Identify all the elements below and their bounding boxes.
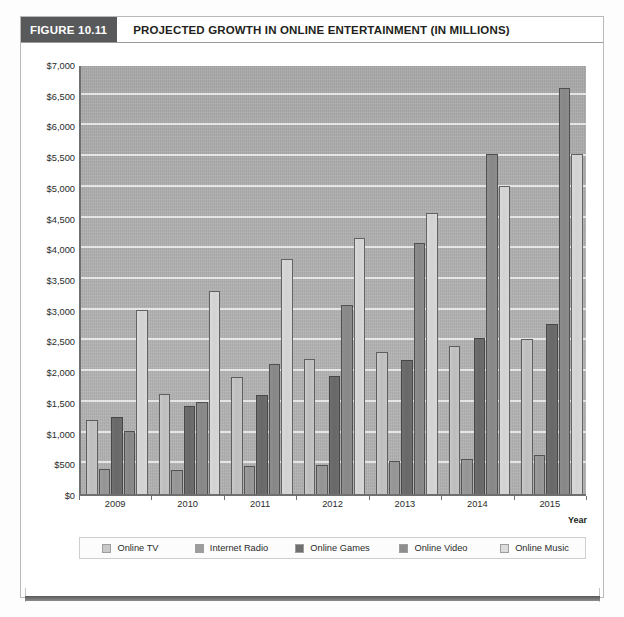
legend-item[interactable]: Online Games	[282, 543, 383, 553]
bar-group	[226, 66, 298, 494]
bar	[184, 406, 196, 494]
bar	[244, 466, 256, 494]
y-axis-tick-label: $1,000	[21, 430, 75, 440]
bar	[136, 310, 148, 494]
x-axis-tick-label: 2013	[395, 499, 416, 509]
bar-group	[443, 66, 515, 494]
y-axis-tick-label: $500	[21, 460, 75, 470]
bar	[111, 417, 123, 494]
y-axis-tick-label: $3,500	[21, 276, 75, 286]
x-axis-tick	[79, 496, 80, 500]
bar	[389, 461, 401, 494]
plot-area	[79, 66, 586, 496]
chart-area: $0$500$1,000$1,500$2,000$2,500$3,000$3,5…	[21, 43, 603, 599]
legend-swatch-icon	[399, 544, 408, 553]
y-axis-labels: $0$500$1,000$1,500$2,000$2,500$3,000$3,5…	[21, 66, 75, 496]
figure-title: PROJECTED GROWTH IN ONLINE ENTERTAINMENT…	[117, 17, 510, 42]
x-axis-title: Year	[568, 515, 587, 525]
bar	[329, 376, 341, 494]
bar	[86, 420, 98, 494]
y-axis-tick-label: $4,000	[21, 245, 75, 255]
legend-swatch-icon	[295, 544, 304, 553]
bar	[499, 186, 511, 494]
figure-frame: FIGURE 10.11 PROJECTED GROWTH IN ONLINE …	[20, 16, 604, 598]
bar	[354, 238, 366, 494]
y-axis-tick-label: $2,500	[21, 337, 75, 347]
x-axis-tick-label: 2011	[250, 499, 270, 509]
bar	[269, 364, 281, 494]
bar	[281, 259, 293, 494]
bar	[414, 243, 426, 494]
y-axis-tick-label: $2,000	[21, 368, 75, 378]
bar	[341, 305, 353, 494]
bar	[546, 324, 558, 494]
legend-label: Internet Radio	[210, 543, 268, 553]
y-axis-tick-label: $6,500	[21, 92, 75, 102]
chart-legend: Online TVInternet RadioOnline GamesOnlin…	[79, 537, 586, 559]
bar	[171, 470, 183, 494]
y-axis-tick-label: $5,000	[21, 184, 75, 194]
bar	[426, 213, 438, 494]
x-axis-tick	[296, 496, 297, 500]
bar	[304, 359, 316, 494]
bar	[316, 465, 328, 494]
bar-group	[298, 66, 370, 494]
legend-label: Online Video	[414, 543, 467, 553]
y-axis-tick-label: $4,500	[21, 215, 75, 225]
legend-label: Online Games	[310, 543, 369, 553]
bar	[124, 431, 136, 494]
x-axis-tick	[151, 496, 152, 500]
bar	[449, 346, 461, 494]
bar	[571, 154, 583, 494]
legend-swatch-icon	[102, 544, 111, 553]
bar-group	[153, 66, 225, 494]
bar	[401, 360, 413, 494]
legend-swatch-icon	[500, 544, 509, 553]
bar	[196, 402, 208, 494]
bar	[376, 352, 388, 494]
x-axis-tick-label: 2015	[539, 499, 560, 509]
bar	[486, 154, 498, 494]
legend-label: Online Music	[515, 543, 569, 553]
bottom-rule	[25, 596, 600, 601]
x-axis-tick-label: 2010	[177, 499, 198, 509]
bar	[159, 394, 171, 494]
x-axis-labels: 2009201020112012201320142015	[79, 499, 586, 517]
figure-page: FIGURE 10.11 PROJECTED GROWTH IN ONLINE …	[0, 0, 624, 617]
legend-swatch-icon	[195, 544, 204, 553]
bar	[474, 338, 486, 494]
bar	[534, 455, 546, 494]
legend-item[interactable]: Online Video	[383, 543, 484, 553]
figure-number: FIGURE 10.11	[21, 17, 117, 42]
legend-label: Online TV	[117, 543, 158, 553]
bar-group	[371, 66, 443, 494]
legend-item[interactable]: Online TV	[80, 543, 181, 553]
y-axis-tick-label: $3,000	[21, 307, 75, 317]
y-axis-tick-label: $0	[21, 491, 75, 501]
bar	[209, 291, 221, 494]
x-axis-tick	[369, 496, 370, 500]
x-axis-tick-label: 2012	[322, 499, 343, 509]
y-axis-tick-label: $7,000	[21, 61, 75, 71]
bar	[521, 339, 533, 494]
x-axis-tick	[224, 496, 225, 500]
bar-group	[81, 66, 153, 494]
x-axis-tick-label: 2014	[467, 499, 488, 509]
legend-item[interactable]: Internet Radio	[181, 543, 282, 553]
legend-item[interactable]: Online Music	[484, 543, 585, 553]
bar	[461, 459, 473, 494]
bar	[256, 395, 268, 495]
y-axis-tick-label: $5,500	[21, 153, 75, 163]
bar	[559, 88, 571, 494]
x-axis-tick	[586, 496, 587, 500]
bar	[231, 377, 243, 494]
bar-group	[516, 66, 586, 494]
y-axis-tick-label: $6,000	[21, 122, 75, 132]
x-axis-tick	[514, 496, 515, 500]
y-axis-tick-label: $1,500	[21, 399, 75, 409]
figure-title-bar: FIGURE 10.11 PROJECTED GROWTH IN ONLINE …	[21, 17, 603, 43]
x-axis-tick	[441, 496, 442, 500]
bar	[99, 469, 111, 494]
x-axis-tick-label: 2009	[105, 499, 126, 509]
